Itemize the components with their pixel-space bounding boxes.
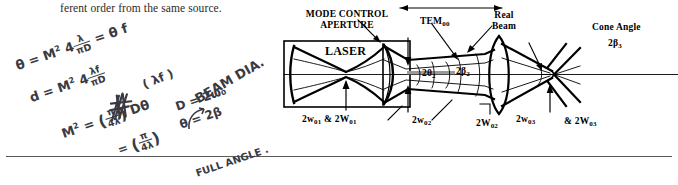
handwritten-equation-1: θ = M2 4 λ πD = θ f [13,18,131,75]
mode-control-aperture-label-line1: MODE CONTROL [292,9,402,19]
handwritten-equation-2: d = M2 4 λf πD [27,63,108,108]
two-beta-3-label: 2β3 [608,38,622,50]
cone-angle-label: Cone Angle [592,22,641,32]
w01-subscript: 01 [314,118,321,126]
wavefront-arc-2 [476,54,480,96]
w01-label: 2w01 & 2W01 [302,114,357,126]
hw-eq: = [81,116,96,134]
hw-exp: 2 [67,75,75,85]
hw-theta: θ [14,56,27,73]
w02-subscript: 02 [424,119,431,127]
handwritten-equation-4: = ( π 4λ ) [115,126,163,160]
two-theta-2-subscript: 2 [432,72,436,80]
cavity-beam-lower [294,77,384,102]
two-beta-3-subscript: 3 [618,42,622,50]
tem00-label: TEM00 [420,16,450,28]
two-theta-2-label: 2θ2 [422,68,436,80]
tem-text: TEM [420,16,442,26]
w02-leader-line [432,100,452,120]
hw-tail-eq: = [92,28,107,46]
two-beta-2-text: 2β [456,66,466,76]
cavity-inner-ray-upper [294,59,384,72]
laser-beam-propagation-diagram: MODE CONTROL APERTURE LASER TEM00 Real B… [280,0,678,150]
W02-subscript: 02 [491,122,498,130]
w03-label: 2w03 [516,114,535,126]
W03-subscript: 03 [589,120,596,128]
cavity-inner-ray-lower [294,77,384,90]
W03-label: & 2W03 [564,116,597,128]
w02-label: 2w02 [412,115,431,127]
hw-eq: = [26,51,41,69]
W01-subscript: 01 [349,118,356,126]
mode-control-aperture-label-line2: APERTURE [292,20,402,30]
two-theta-2-text: 2θ [422,68,432,78]
w03-text: 2w [516,114,528,124]
hw-d: d [28,88,42,105]
W03-text: 2W [575,116,590,126]
handwritten-parenthetical: ( λf ) [140,66,175,91]
W01-text: 2W [335,114,350,124]
scanned-page: ferent order from the same source. θ = M… [0,0,678,185]
tem00-lower-envelope [384,80,493,89]
w01-ampersand: & [324,114,332,124]
focusing-lens [489,36,509,114]
waist-marker-arrow-w01 [343,80,350,110]
hw-tail: θ f [107,21,130,41]
real-beam-label-line1: Real [476,10,532,20]
w03-ampersand: & [564,116,572,126]
two-beta-2-subscript: 2 [466,70,470,78]
diverging-lower-outer [554,75,580,103]
hw-eq: = [116,141,130,158]
W02-label: 2W02 [476,118,498,130]
handwritten-hook-arrow [186,104,212,130]
w01-text: 2w [302,114,314,124]
horizontal-rule [6,156,672,157]
handwritten-note-beam-dia: BEAM DIA. [192,54,266,106]
body-text-line: ferent order from the same source. [60,2,222,14]
handwritten-note-full-angle: FULL ANGLE . [194,144,269,179]
W02-text: 2W [476,118,491,128]
real-beam-label-line2: Beam [476,21,532,31]
w02-text: 2w [412,115,424,125]
left-leader-line [388,106,402,120]
W02-leader-line [480,104,490,114]
tem00-pointer-arrow [432,24,458,60]
laser-label: LASER [325,44,366,59]
w03-subscript: 03 [528,118,535,126]
two-beta-2-label: 2β2 [456,66,470,78]
tem00-upper-envelope [384,60,493,69]
tem-subscript: 00 [442,20,449,28]
hw-eq: = [41,83,56,101]
two-beta-3-text: 2β [608,38,618,48]
